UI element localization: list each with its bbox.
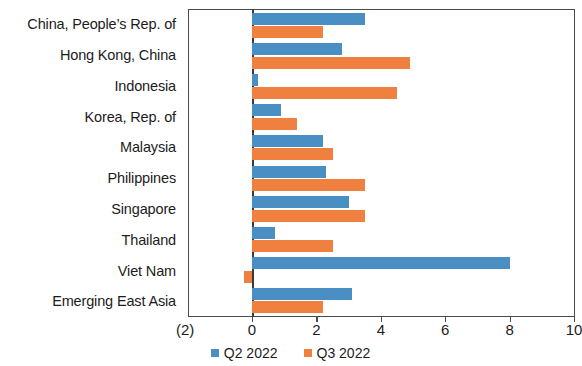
bars-layer [188, 10, 574, 316]
bar-q2 [252, 13, 365, 25]
category-label: China, People’s Rep. of [0, 9, 182, 40]
category-label: Indonesia [0, 71, 182, 102]
category-label: Emerging East Asia [0, 286, 182, 317]
bar-group [188, 102, 574, 133]
bar-q3 [252, 210, 365, 222]
bar-q2 [252, 74, 258, 86]
bar-q3 [252, 118, 297, 130]
bar-q2 [252, 135, 323, 147]
bar-q2 [252, 227, 275, 239]
legend-swatch-icon [304, 349, 312, 357]
bar-q3 [252, 57, 410, 69]
bar-group [188, 194, 574, 225]
legend-label: Q2 2022 [224, 346, 278, 360]
legend-item-q2: Q2 2022 [211, 346, 278, 360]
x-axis-tick-label: 6 [441, 322, 449, 337]
bar-q3 [252, 26, 323, 38]
bar-q3 [252, 301, 323, 313]
bar-group [188, 132, 574, 163]
legend-label: Q3 2022 [317, 346, 371, 360]
bar-group [188, 163, 574, 194]
x-axis-tick-label: 0 [248, 322, 256, 337]
x-axis-tick-label: 4 [377, 322, 385, 337]
x-axis-tick-label: 8 [505, 322, 513, 337]
category-label: Viet Nam [0, 255, 182, 286]
bar-group [188, 41, 574, 72]
bar-group [188, 71, 574, 102]
bar-group [188, 10, 574, 41]
category-label: Hong Kong, China [0, 40, 182, 71]
bar-q3 [252, 179, 365, 191]
category-label: Korea, Rep. of [0, 101, 182, 132]
bar-group [188, 224, 574, 255]
legend-swatch-icon [211, 349, 219, 357]
category-label: Philippines [0, 163, 182, 194]
category-label: Singapore [0, 194, 182, 225]
x-axis-tick-label: (2) [176, 322, 194, 337]
bar-q2 [252, 104, 281, 116]
bar-q3 [252, 87, 397, 99]
bar-q3 [252, 240, 333, 252]
bar-q2 [252, 43, 342, 55]
category-axis-labels: China, People’s Rep. of Hong Kong, China… [0, 9, 182, 317]
bar-group [188, 255, 574, 286]
bar-q2 [252, 166, 326, 178]
bar-group [188, 285, 574, 316]
chart-legend: Q2 2022 Q3 2022 [0, 346, 581, 360]
bar-q2 [252, 288, 352, 300]
x-axis-tick-label: 10 [566, 322, 582, 337]
category-label: Thailand [0, 225, 182, 256]
bar-q3 [252, 148, 333, 160]
bar-q2 [252, 196, 349, 208]
legend-item-q3: Q3 2022 [304, 346, 371, 360]
category-label: Malaysia [0, 132, 182, 163]
bar-q2 [252, 257, 510, 269]
x-axis-tick-label: 2 [312, 322, 320, 337]
bar-q3 [244, 271, 252, 283]
